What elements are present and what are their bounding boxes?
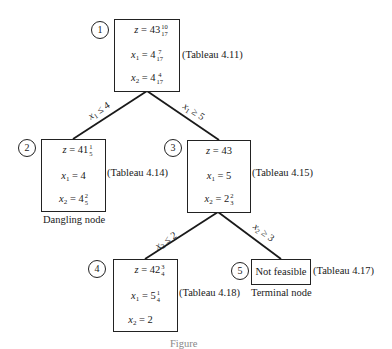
node-5-status: Not feasible xyxy=(252,266,310,277)
node-3-tableau-ref: (Tableau 4.15) xyxy=(252,167,313,178)
node-1-x2: x2 = 4417 xyxy=(115,72,179,85)
node-2-tableau-ref: (Tableau 4.14) xyxy=(107,167,168,178)
node-2-x1: x1 = 4 xyxy=(42,170,105,183)
node-1-box: z = 431017 x1 = 4717 x2 = 4417 xyxy=(114,19,180,92)
edge-1-3 xyxy=(147,91,219,140)
node-4-x1: x1 = 514 xyxy=(114,290,177,303)
node-1-z: z = 431017 xyxy=(115,24,179,37)
node-number-4: 4 xyxy=(88,260,106,278)
node-2-z: z = 4115 xyxy=(42,144,105,157)
node-5-note: Terminal node xyxy=(251,287,312,298)
node-number-1: 1 xyxy=(91,21,109,39)
node-4-tableau-ref: (Tableau 4.18) xyxy=(179,287,240,298)
node-4-box: z = 4234 x1 = 514 x2 = 2 xyxy=(113,259,178,332)
figure-caption: Figure xyxy=(170,338,197,349)
node-4-x2: x2 = 2 xyxy=(114,314,177,327)
node-number-2: 2 xyxy=(18,139,36,157)
node-1-x1: x1 = 4717 xyxy=(115,49,179,62)
node-number-3: 3 xyxy=(164,139,182,157)
edge-3-4 xyxy=(145,212,218,259)
node-3-z: z = 43 xyxy=(188,145,250,156)
edge-1-2 xyxy=(73,91,147,139)
node-3-x2: x2 = 223 xyxy=(188,193,250,206)
node-1-tableau-ref: (Tableau 4.11) xyxy=(182,49,243,60)
node-number-5: 5 xyxy=(231,262,249,280)
node-2-note: Dangling node xyxy=(43,214,105,225)
node-5-tableau-ref: (Tableau 4.17) xyxy=(313,265,374,276)
node-2-box: z = 4115 x1 = 4 x2 = 425 xyxy=(41,139,106,212)
node-3-box: z = 43 x1 = 5 x2 = 223 xyxy=(187,140,251,213)
node-4-z: z = 4234 xyxy=(114,264,177,277)
node-2-x2: x2 = 425 xyxy=(42,193,105,206)
node-3-x1: x1 = 5 xyxy=(188,170,250,183)
node-5-box: Not feasible xyxy=(251,259,311,285)
